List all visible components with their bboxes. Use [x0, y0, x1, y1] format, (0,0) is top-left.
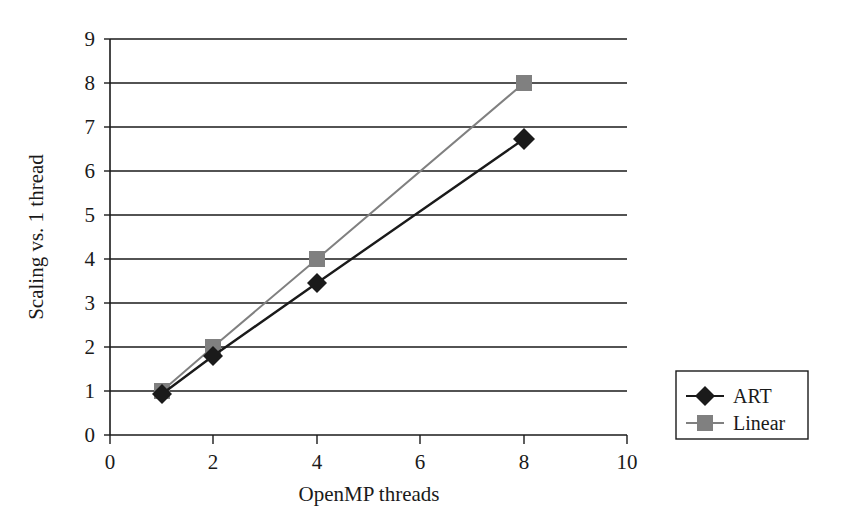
- y-tick-label-1: 1: [85, 379, 96, 403]
- y-tick-label-0: 0: [85, 423, 96, 447]
- y-tick-label-4: 4: [85, 247, 96, 271]
- x-tick-label-4: 4: [312, 450, 323, 474]
- y-axis-title: Scaling vs. 1 thread: [24, 154, 48, 320]
- y-tick-label-9: 9: [85, 27, 96, 51]
- series-linear-marker-4: [309, 251, 325, 267]
- x-tick-label-0: 0: [105, 450, 116, 474]
- chart-legend: ART Linear: [676, 371, 808, 439]
- x-tick-label-2: 2: [208, 450, 219, 474]
- x-axis-title: OpenMP threads: [299, 482, 440, 506]
- scaling-line-chart: 9 8 7 6 5 4 3 2 1 0 0 2 4 6 8 10 OpenMP …: [0, 0, 856, 523]
- y-tick-label-8: 8: [85, 71, 96, 95]
- x-tick-label-6: 6: [415, 450, 426, 474]
- chart-background: [0, 0, 856, 523]
- y-tick-label-6: 6: [85, 159, 96, 183]
- y-tick-label-3: 3: [85, 291, 96, 315]
- y-tick-label-2: 2: [85, 335, 96, 359]
- x-tick-label-10: 10: [617, 450, 638, 474]
- legend-entry-linear[interactable]: Linear: [686, 412, 786, 434]
- legend-label-art: ART: [733, 385, 772, 407]
- legend-label-linear: Linear: [733, 412, 786, 434]
- x-tick-label-8: 8: [519, 450, 530, 474]
- y-tick-label-7: 7: [85, 115, 96, 139]
- series-linear-marker-8: [516, 75, 532, 91]
- y-tick-label-5: 5: [85, 203, 96, 227]
- chart-figure: 9 8 7 6 5 4 3 2 1 0 0 2 4 6 8 10 OpenMP …: [0, 0, 856, 523]
- legend-marker-square-icon: [697, 415, 713, 431]
